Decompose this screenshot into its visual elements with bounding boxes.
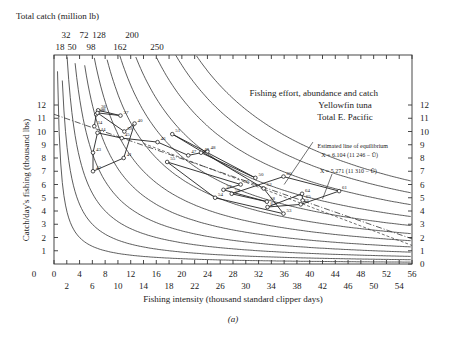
svg-text:24: 24 [203,269,213,279]
data-point: 51 [170,128,180,136]
svg-text:12: 12 [126,269,135,279]
svg-text:11: 11 [37,113,46,123]
svg-text:36: 36 [280,269,290,279]
svg-text:34: 34 [267,281,277,291]
svg-text:5: 5 [420,193,425,203]
chart-title: Fishing effort, abundance and catch [249,88,378,98]
svg-text:34: 34 [97,120,103,125]
svg-text:46: 46 [344,281,354,291]
svg-text:3: 3 [42,219,47,229]
svg-text:200: 200 [125,30,139,40]
svg-text:18: 18 [56,42,66,52]
svg-text:60: 60 [287,171,293,176]
data-point: 56 [239,179,249,187]
equilibrium-title: Estimated line of equilibrium [318,143,389,149]
equilibrium-line1-label: X = 6.104 (11 246 − Ū) [321,152,378,159]
data-point: 41 [122,152,132,160]
svg-text:11: 11 [420,113,429,123]
svg-text:38: 38 [100,107,106,112]
svg-text:9: 9 [42,140,47,150]
y-axis-label: Catch/day's fishing (thousand lbs) [21,119,31,241]
svg-text:4: 4 [42,206,47,216]
svg-text:8: 8 [420,153,425,163]
svg-text:55: 55 [170,156,176,161]
svg-text:18: 18 [165,281,175,291]
data-point: 40 [133,118,143,126]
svg-text:40: 40 [138,118,144,123]
svg-text:47: 47 [191,149,197,154]
svg-text:6: 6 [90,281,95,291]
svg-text:20: 20 [177,269,187,279]
svg-text:6: 6 [420,180,425,190]
svg-text:0: 0 [52,269,57,279]
svg-text:8: 8 [103,269,108,279]
svg-text:64: 64 [305,188,311,193]
svg-text:10: 10 [37,127,47,137]
svg-text:7: 7 [42,166,47,176]
svg-text:3: 3 [420,219,425,229]
data-point: 50 [254,172,264,180]
svg-text:72: 72 [80,30,89,40]
svg-text:54: 54 [395,281,405,291]
svg-text:16: 16 [152,269,162,279]
equilibrium-line2-label: X = 5.271 (11 310 − Ū) [320,168,377,175]
svg-text:12: 12 [37,100,46,110]
svg-text:49: 49 [204,147,210,152]
svg-text:50: 50 [369,281,379,291]
svg-text:4: 4 [77,269,82,279]
svg-text:58: 58 [270,196,276,201]
top-axis-label: Total catch (million lb) [16,11,99,21]
svg-text:44: 44 [100,127,106,132]
svg-text:45: 45 [125,132,131,137]
svg-text:59: 59 [235,188,241,193]
svg-text:12: 12 [420,100,429,110]
total-catch-isopleths [58,55,411,262]
svg-text:48: 48 [210,145,216,150]
svg-text:46: 46 [161,136,167,141]
svg-text:128: 128 [92,30,106,40]
svg-text:50: 50 [258,172,264,177]
svg-text:0: 0 [32,269,37,279]
svg-text:56: 56 [244,179,250,184]
svg-text:61: 61 [342,185,348,190]
svg-text:8: 8 [42,153,47,163]
svg-text:2: 2 [42,233,47,243]
svg-text:28: 28 [229,269,239,279]
svg-text:42: 42 [96,165,102,170]
svg-text:2: 2 [65,281,70,291]
svg-text:44: 44 [331,269,341,279]
svg-text:1: 1 [420,246,425,256]
equilibrium-lines [54,114,412,245]
svg-text:41: 41 [127,152,133,157]
svg-text:30: 30 [241,281,251,291]
svg-text:51: 51 [175,128,181,133]
chart-canvas: 3435363738394041424344454647484950515253… [0,0,453,343]
svg-text:50: 50 [68,42,78,52]
svg-text:56: 56 [408,269,418,279]
svg-text:4: 4 [420,206,425,216]
svg-text:0: 0 [420,259,425,269]
data-point: 53 [282,208,292,216]
svg-text:250: 250 [150,42,164,52]
chart-subtitle-1: Yellowfin tuna [318,100,371,110]
svg-text:42: 42 [318,281,327,291]
svg-text:22: 22 [190,281,199,291]
svg-text:14: 14 [139,281,149,291]
svg-text:52: 52 [382,269,391,279]
svg-text:53: 53 [287,208,293,213]
svg-text:10: 10 [113,281,123,291]
svg-text:48: 48 [356,269,366,279]
x-axis-label: Fishing intensity (thousand standard cli… [143,294,323,304]
data-point: 46 [156,136,166,144]
svg-text:9: 9 [420,140,425,150]
svg-text:10: 10 [420,127,430,137]
svg-text:98: 98 [87,42,97,52]
svg-text:54: 54 [218,192,224,197]
svg-text:39: 39 [127,126,133,131]
svg-text:1: 1 [42,246,47,256]
chart-subtitle-2: Total E. Pacific [317,112,373,122]
data-point: 43 [91,147,101,155]
svg-text:26: 26 [216,281,226,291]
data-point: 47 [186,149,196,157]
svg-text:162: 162 [113,42,127,52]
